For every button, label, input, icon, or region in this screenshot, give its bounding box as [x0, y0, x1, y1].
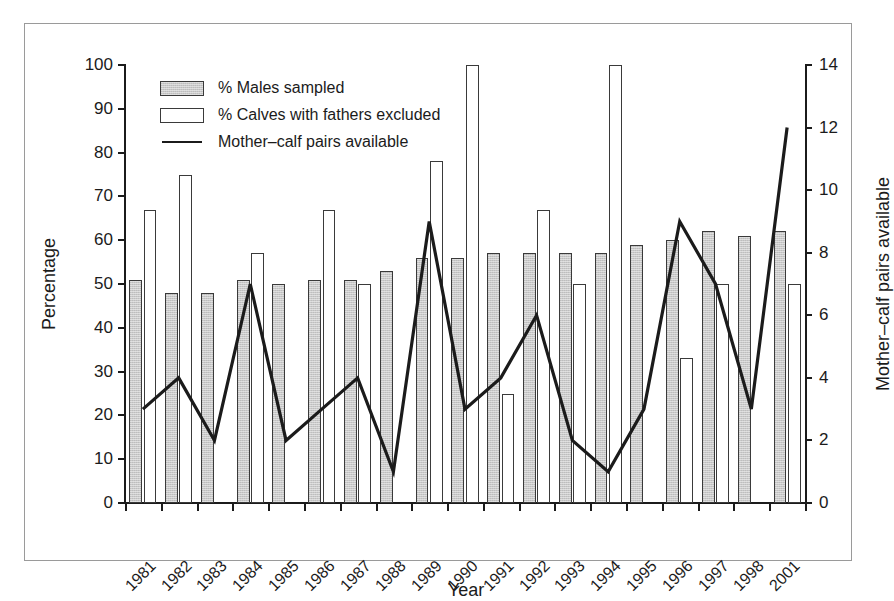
chart-legend: % Males sampled % Calves with fathers ex… [160, 76, 440, 157]
y-axis-right-tick [805, 439, 812, 441]
x-axis-tick [769, 503, 771, 511]
x-axis-tick [125, 503, 127, 511]
x-axis-tick [376, 503, 378, 511]
x-axis-tick [447, 503, 449, 511]
y-axis-left-tick-label: 50 [67, 274, 113, 294]
y-axis-left-tick [118, 327, 125, 329]
y-axis-left-tick-label: 30 [67, 362, 113, 382]
y-axis-left-tick-label: 70 [67, 186, 113, 206]
y-axis-right-tick [805, 127, 812, 129]
y-axis-right-tick [805, 314, 812, 316]
y-axis-right-tick [805, 64, 812, 66]
y-axis-right-tick-label: 8 [819, 243, 828, 263]
y-axis-left-tick-label: 10 [67, 449, 113, 469]
figure-frame: Percentage Mother–calf pairs available Y… [24, 23, 852, 561]
x-axis-tick [662, 503, 664, 511]
x-axis-tick [161, 503, 163, 511]
y-axis-left-tick-label: 0 [67, 493, 113, 513]
legend-item-calves-fathers-excluded: % Calves with fathers excluded [160, 103, 440, 127]
y-axis-left-tick [118, 371, 125, 373]
legend-swatch-line-icon [160, 135, 204, 150]
y-axis-left-tick [118, 64, 125, 66]
y-axis-left-tick-label: 100 [67, 55, 113, 75]
x-axis-tick [197, 503, 199, 511]
legend-swatch-white-bar-icon [160, 108, 204, 123]
y-axis-right-tick [805, 189, 812, 191]
y-axis-left-tick [118, 195, 125, 197]
y-axis-left-tick [118, 414, 125, 416]
y-axis-right-title: Mother–calf pairs available [873, 177, 894, 391]
x-axis-tick-label: 2001 [757, 557, 804, 601]
y-axis-right-tick-label: 14 [819, 55, 838, 75]
x-axis-tick [340, 503, 342, 511]
legend-label: % Calves with fathers excluded [218, 106, 440, 124]
x-axis-tick [519, 503, 521, 511]
y-axis-right-tick-label: 10 [819, 180, 838, 200]
x-axis-tick [590, 503, 592, 511]
y-axis-left-tick [118, 108, 125, 110]
legend-swatch-gray-bar-icon [160, 81, 204, 96]
legend-label: Mother–calf pairs available [218, 133, 408, 151]
y-axis-left-tick [118, 239, 125, 241]
legend-item-males-sampled: % Males sampled [160, 76, 440, 100]
y-axis-right-tick-label: 4 [819, 368, 828, 388]
y-axis-right-tick-label: 12 [819, 118, 838, 138]
x-axis-tick [268, 503, 270, 511]
x-axis-tick [483, 503, 485, 511]
x-axis-tick [411, 503, 413, 511]
y-axis-left-tick [118, 502, 125, 504]
y-axis-right-tick [805, 377, 812, 379]
legend-label: % Males sampled [218, 79, 344, 97]
y-axis-left-tick-label: 90 [67, 99, 113, 119]
x-axis-tick [805, 503, 807, 511]
y-axis-right-tick [805, 252, 812, 254]
x-axis-tick [304, 503, 306, 511]
y-axis-right-tick-label: 6 [819, 305, 828, 325]
x-axis-tick [554, 503, 556, 511]
y-axis-left-tick [118, 458, 125, 460]
x-axis-tick [698, 503, 700, 511]
y-axis-left-tick-label: 20 [67, 405, 113, 425]
y-axis-left-tick-label: 40 [67, 318, 113, 338]
y-axis-left-tick-label: 60 [67, 230, 113, 250]
legend-item-mother-calf-pairs: Mother–calf pairs available [160, 130, 440, 154]
y-axis-right-tick-label: 0 [819, 493, 828, 513]
y-axis-left-tick [118, 152, 125, 154]
y-axis-left-tick-label: 80 [67, 143, 113, 163]
x-axis-tick [626, 503, 628, 511]
x-axis-tick [232, 503, 234, 511]
y-axis-left-title: Percentage [39, 238, 60, 330]
y-axis-right-spine [805, 64, 807, 504]
y-axis-right-tick-label: 2 [819, 430, 828, 450]
y-axis-left-tick [118, 283, 125, 285]
x-axis-tick [733, 503, 735, 511]
